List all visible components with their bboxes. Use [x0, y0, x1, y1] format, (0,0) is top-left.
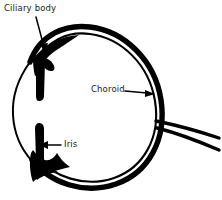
- label-choroid: Choroid: [91, 85, 125, 94]
- label-iris: Iris: [64, 140, 77, 149]
- eye-anatomy-diagram: Ciliary body Choroid Iris: [0, 0, 222, 200]
- label-ciliary-body: Ciliary body: [4, 4, 56, 13]
- optic-nerve-lower-line: [157, 128, 219, 150]
- cornea-arc: [13, 62, 32, 161]
- choroid-leader-line: [125, 91, 147, 93]
- eye-diagram-svg: [0, 0, 222, 200]
